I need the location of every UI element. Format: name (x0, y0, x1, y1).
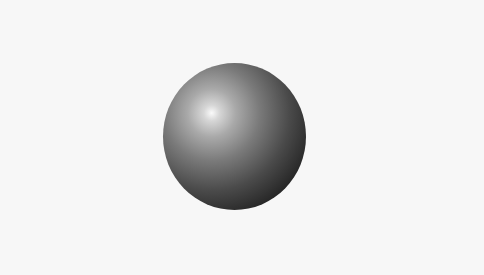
shaded-sphere (163, 63, 306, 210)
background-canvas (0, 0, 484, 275)
